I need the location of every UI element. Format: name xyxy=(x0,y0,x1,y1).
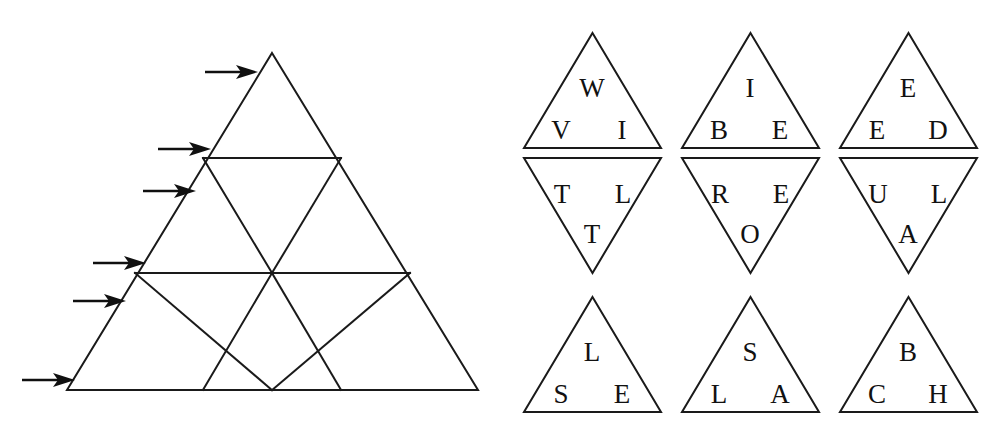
tile-4-letter-top-right: L xyxy=(615,179,632,209)
arrow-row2-mid xyxy=(143,184,196,198)
tile-7-letter-bottom-left: S xyxy=(553,379,568,409)
tile-3[interactable]: E E D xyxy=(840,33,977,148)
internal-edge-right-b xyxy=(272,273,410,390)
tile-1-letter-bottom-left: V xyxy=(551,115,571,145)
tile-2-letter-top: I xyxy=(746,73,755,103)
tile-6-outline xyxy=(840,158,977,273)
tile-2[interactable]: I B E xyxy=(682,33,819,148)
arrow-row2-top xyxy=(158,142,211,156)
tile-3-letter-bottom-right: D xyxy=(928,115,948,145)
tile-5-outline xyxy=(682,158,819,273)
tile-8-letter-bottom-left: L xyxy=(711,379,728,409)
tile-5-letter-top-left: R xyxy=(711,179,729,209)
tile-4-letter-bottom: T xyxy=(584,219,601,249)
tile-5-letter-bottom: O xyxy=(740,219,760,249)
tile-6[interactable]: U L A xyxy=(840,158,977,273)
internal-edge-left-a xyxy=(203,158,272,273)
tile-3-letter-top: E xyxy=(900,73,917,103)
internal-edge-right-c xyxy=(203,273,272,390)
tile-1-letter-bottom-right: I xyxy=(618,115,627,145)
arrow-row3-base xyxy=(22,373,75,387)
tile-4-outline xyxy=(524,158,661,273)
tile-5-letter-top-right: E xyxy=(773,179,790,209)
tile-8-letter-top: S xyxy=(742,337,757,367)
puzzle-figure-svg: W V I I B E E E D T L T xyxy=(0,0,998,432)
tile-5[interactable]: R E O xyxy=(682,158,819,273)
arrow-row3-top xyxy=(93,256,146,270)
tile-7-letter-top: L xyxy=(584,337,601,367)
internal-edge-left-c xyxy=(272,273,341,390)
tile-3-letter-bottom-left: E xyxy=(869,115,886,145)
tile-7-letter-bottom-right: E xyxy=(614,379,631,409)
tile-8[interactable]: S L A xyxy=(682,297,819,412)
tile-2-letter-bottom-left: B xyxy=(710,115,728,145)
tile-6-letter-bottom: A xyxy=(898,219,918,249)
tile-9[interactable]: B C H xyxy=(840,297,977,412)
main-triangle-outline xyxy=(67,53,478,390)
tile-1-letter-top: W xyxy=(579,73,605,103)
tile-6-letter-top-left: U xyxy=(868,179,888,209)
tile-4-letter-top-left: T xyxy=(554,179,571,209)
tile-4[interactable]: T L T xyxy=(524,158,661,273)
internal-edge-left-b xyxy=(135,273,272,390)
tile-7[interactable]: L S E xyxy=(524,297,661,412)
tile-9-letter-bottom-right: H xyxy=(928,379,948,409)
letter-triangle-tiles: W V I I B E E E D T L T xyxy=(524,33,977,412)
tile-1[interactable]: W V I xyxy=(524,33,661,148)
tile-9-letter-bottom-left: C xyxy=(868,379,886,409)
arrow-row1 xyxy=(205,65,258,79)
subdivided-triangle-diagram xyxy=(22,53,478,390)
tile-6-letter-top-right: L xyxy=(931,179,948,209)
puzzle-figure-page: W V I I B E E E D T L T xyxy=(0,0,998,432)
tile-8-letter-bottom-right: A xyxy=(770,379,790,409)
tile-9-letter-top: B xyxy=(899,337,917,367)
tile-2-letter-bottom-right: E xyxy=(772,115,789,145)
internal-edge-right-a xyxy=(272,158,341,273)
